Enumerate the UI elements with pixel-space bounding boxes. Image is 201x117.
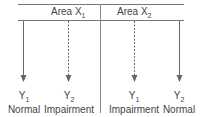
state: Normal bbox=[3, 105, 45, 115]
output-y2-normal: Y2 Normal bbox=[158, 91, 200, 115]
sub: 1 bbox=[135, 96, 139, 103]
sub: 2 bbox=[70, 96, 74, 103]
state: Normal bbox=[158, 105, 200, 115]
state: Impairment bbox=[108, 105, 160, 115]
sub: 1 bbox=[25, 96, 29, 103]
sub: 2 bbox=[180, 96, 184, 103]
output-y2-impairment: Y2 Impairment bbox=[44, 91, 94, 115]
state: Impairment bbox=[44, 105, 94, 115]
output-y1-normal: Y1 Normal bbox=[3, 91, 45, 115]
output-y1-impairment: Y1 Impairment bbox=[108, 91, 160, 115]
